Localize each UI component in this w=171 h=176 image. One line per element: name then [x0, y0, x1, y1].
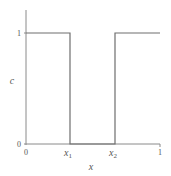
x-tick-label-x2: x2: [108, 147, 117, 160]
x-tick-label-x1: x1: [63, 147, 72, 160]
y-axis-label: c: [10, 75, 15, 86]
x-axis-label: x: [88, 161, 94, 172]
y-tick-label-0: 0: [17, 140, 21, 149]
y-tick-label-1: 1: [17, 29, 21, 38]
x-tick-label-0: 0: [24, 148, 28, 157]
x-tick-label-end: 1: [158, 148, 162, 157]
step-function-chart: 1 0 0 1 x1 x2 x c: [0, 0, 171, 176]
step-function-line: [26, 33, 160, 144]
